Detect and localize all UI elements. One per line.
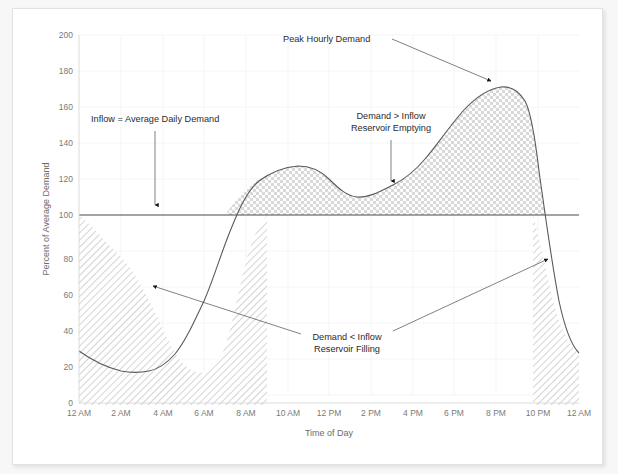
y-tick-160: 160 [59, 102, 73, 112]
x-tick-6pm: 6 PM [444, 408, 464, 418]
y-tick-120: 120 [59, 174, 73, 184]
y-tick-20: 20 [64, 362, 74, 372]
annotation-emptying-line2: Reservoir Emptying [351, 123, 431, 133]
y-tick-140: 140 [59, 138, 73, 148]
x-tick-4am: 4 AM [153, 408, 172, 418]
annotation-filling: Demand < Inflow Reservoir Filling [153, 259, 548, 354]
annotation-inflow: Inflow = Average Daily Demand [91, 114, 219, 205]
chart-figure: 0 20 40 60 80 100 120 140 160 180 200 12… [13, 9, 602, 464]
y-tick-60: 60 [64, 290, 74, 300]
y-axis-tick-labels: 0 20 40 60 80 100 120 140 160 180 200 [59, 30, 73, 408]
y-tick-180: 180 [59, 66, 73, 76]
x-tick-12pm: 12 PM [317, 408, 342, 418]
annotation-peak-leader [392, 39, 491, 81]
x-axis-tick-labels: 12 AM 2 AM 4 AM 6 AM 8 AM 10 AM 12 PM 2 … [67, 408, 591, 418]
y-tick-0: 0 [68, 398, 73, 408]
x-tick-6am: 6 AM [194, 408, 213, 418]
y-tick-100: 100 [59, 210, 73, 220]
annotation-inflow-label: Inflow = Average Daily Demand [91, 114, 219, 124]
x-tick-4pm: 4 PM [403, 408, 423, 418]
x-tick-10pm: 10 PM [526, 408, 551, 418]
chart-card: 0 20 40 60 80 100 120 140 160 180 200 12… [12, 8, 603, 465]
x-tick-12am-start: 12 AM [67, 408, 91, 418]
x-tick-8am: 8 AM [236, 408, 255, 418]
demand-curve-chart: 0 20 40 60 80 100 120 140 160 180 200 12… [13, 9, 602, 464]
y-tick-80: 80 [64, 254, 74, 264]
annotation-filling-line1: Demand < Inflow [312, 332, 382, 342]
annotation-filling-line2: Reservoir Filling [314, 344, 380, 354]
y-tick-200: 200 [59, 30, 73, 40]
x-tick-10am: 10 AM [276, 408, 300, 418]
annotation-peak: Peak Hourly Demand [283, 34, 491, 81]
fill-above-inflow [225, 87, 546, 215]
y-tick-40: 40 [64, 326, 74, 336]
x-tick-2pm: 2 PM [361, 408, 381, 418]
annotation-peak-label: Peak Hourly Demand [283, 34, 370, 44]
y-axis-title: Percent of Average Demand [41, 163, 51, 276]
x-tick-8pm: 8 PM [486, 408, 506, 418]
screenshot-root: 0 20 40 60 80 100 120 140 160 180 200 12… [0, 0, 618, 474]
x-tick-2am: 2 AM [111, 408, 130, 418]
annotation-filling-leader-left [153, 286, 301, 334]
annotation-emptying-line1: Demand > Inflow [356, 111, 426, 121]
annotation-filling-leader-right [393, 259, 548, 331]
x-tick-12am-end: 12 AM [567, 408, 591, 418]
x-axis-title: Time of Day [305, 428, 354, 438]
